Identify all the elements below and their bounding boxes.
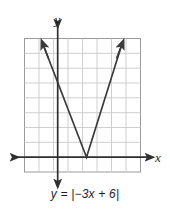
y-axis-label: y [53, 12, 61, 27]
equation-caption: y = |−3x + 6| [0, 187, 170, 201]
graph-figure: y x [0, 0, 170, 218]
equation-text: y = |−3x + 6| [51, 187, 120, 201]
coordinate-plane-svg: y x [0, 0, 170, 218]
x-axis-label: x [154, 150, 161, 165]
